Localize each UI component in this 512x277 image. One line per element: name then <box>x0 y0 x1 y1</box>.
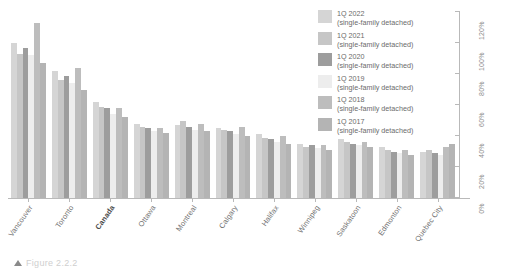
x-axis-label-cell: Toronto <box>49 199 90 255</box>
legend-label: 1Q 2017(single-family detached) <box>337 117 413 135</box>
bar <box>408 155 414 198</box>
x-axis-label: Calgary <box>217 203 240 230</box>
legend-label-sublabel: (single-family detached) <box>337 83 413 92</box>
legend-item: 1Q 2021(single-family detached) <box>318 31 458 49</box>
bar-group <box>90 12 131 198</box>
x-axis-labels: VancouverTorontoCanadaOttawaMontrealCalg… <box>8 199 458 255</box>
x-axis-tick <box>315 199 316 202</box>
legend-item: 1Q 2022(single-family detached) <box>318 9 458 27</box>
legend-label-year: 1Q 2021 <box>337 31 413 40</box>
x-axis-label: Montreal <box>174 203 199 233</box>
x-axis-tick <box>151 199 152 202</box>
legend-label-year: 1Q 2017 <box>337 117 413 126</box>
bar <box>245 136 251 198</box>
figure-container: 0%20%40%60%80%100%120% VancouverTorontoC… <box>0 0 512 277</box>
bar-group <box>8 12 49 198</box>
y-axis-tick-label: 80% <box>478 81 485 96</box>
x-axis-label: Winnipeg <box>296 203 322 234</box>
x-axis-tick <box>69 199 70 202</box>
x-axis-label-cell: Edmonton <box>376 199 417 255</box>
x-axis-tick <box>438 199 439 202</box>
x-axis-label-cell: Canada <box>90 199 131 255</box>
y-axis-tick-label: 40% <box>478 143 485 158</box>
legend-label-sublabel: (single-family detached) <box>337 18 413 27</box>
legend-label-sublabel: (single-family detached) <box>337 40 413 49</box>
x-axis-label: Vancouver <box>7 203 35 238</box>
x-axis-label: Halifax <box>260 203 281 228</box>
y-axis-line <box>459 12 460 198</box>
bar <box>163 133 169 198</box>
x-axis-label: Saskatoon <box>334 203 362 238</box>
legend-label: 1Q 2019(single-family detached) <box>337 74 413 92</box>
x-axis-tick <box>110 199 111 202</box>
legend-color-swatch <box>318 75 332 88</box>
bar-group <box>213 12 254 198</box>
triangle-marker-icon <box>14 260 22 266</box>
bar <box>367 147 373 198</box>
x-axis-label: Ottawa <box>136 203 157 228</box>
y-axis-tick-label: 120% <box>478 21 485 40</box>
figure-caption-text: Figure 2.2.2 <box>26 258 78 268</box>
x-axis-label-cell: Calgary <box>213 199 254 255</box>
chart-legend: 1Q 2022(single-family detached)1Q 2021(s… <box>318 9 458 138</box>
x-axis-label: Toronto <box>54 203 76 229</box>
legend-label-year: 1Q 2020 <box>337 52 413 61</box>
bar <box>326 150 332 198</box>
x-axis-tick <box>356 199 357 202</box>
legend-label: 1Q 2018(single-family detached) <box>337 95 413 113</box>
legend-label: 1Q 2020(single-family detached) <box>337 52 413 70</box>
bar-group <box>172 12 213 198</box>
legend-label-sublabel: (single-family detached) <box>337 61 413 70</box>
legend-color-swatch <box>318 32 332 45</box>
legend-color-swatch <box>318 118 332 131</box>
legend-item: 1Q 2019(single-family detached) <box>318 74 458 92</box>
x-axis-label-cell: Halifax <box>253 199 294 255</box>
legend-color-swatch <box>318 96 332 109</box>
x-axis-label-cell: Vancouver <box>8 199 49 255</box>
bar-group <box>49 12 90 198</box>
legend-item: 1Q 2017(single-family detached) <box>318 117 458 135</box>
bar <box>40 63 46 198</box>
y-axis-tick <box>455 166 460 167</box>
bar-group <box>131 12 172 198</box>
bar <box>81 90 87 199</box>
y-axis-tick-label: 60% <box>478 112 485 127</box>
bar <box>204 131 210 198</box>
bar <box>122 117 128 198</box>
bar-group <box>253 12 294 198</box>
y-axis-tick-label: 100% <box>478 52 485 71</box>
y-axis-tick-label: 0% <box>478 203 485 214</box>
x-axis-label-cell: Winnipeg <box>294 199 335 255</box>
x-axis-label: Quebec City <box>412 203 444 243</box>
legend-item: 1Q 2018(single-family detached) <box>318 95 458 113</box>
y-axis-tick-label: 20% <box>478 174 485 189</box>
x-axis-tick <box>397 199 398 202</box>
x-axis-label-cell: Quebec City <box>417 199 458 255</box>
bar <box>449 144 455 198</box>
legend-color-swatch <box>318 10 332 23</box>
x-axis-label: Edmonton <box>376 203 403 237</box>
legend-label-sublabel: (single-family detached) <box>337 126 413 135</box>
x-axis-label-cell: Ottawa <box>131 199 172 255</box>
legend-label: 1Q 2021(single-family detached) <box>337 31 413 49</box>
bar <box>286 144 292 198</box>
figure-caption: Figure 2.2.2 <box>14 258 78 268</box>
legend-item: 1Q 2020(single-family detached) <box>318 52 458 70</box>
x-axis-tick <box>233 199 234 202</box>
x-axis-label: Canada <box>94 203 117 231</box>
x-axis-tick <box>192 199 193 202</box>
legend-label-sublabel: (single-family detached) <box>337 104 413 113</box>
legend-color-swatch <box>318 53 332 66</box>
legend-label-year: 1Q 2018 <box>337 95 413 104</box>
x-axis-tick <box>274 199 275 202</box>
legend-label: 1Q 2022(single-family detached) <box>337 9 413 27</box>
x-axis-label-cell: Saskatoon <box>335 199 376 255</box>
x-axis-label-cell: Montreal <box>172 199 213 255</box>
legend-label-year: 1Q 2019 <box>337 74 413 83</box>
x-axis-tick <box>28 199 29 202</box>
legend-label-year: 1Q 2022 <box>337 9 413 18</box>
